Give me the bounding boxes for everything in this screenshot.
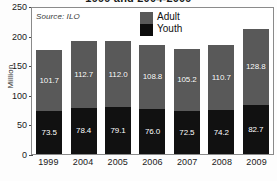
bar-value-adult: 108.8: [143, 72, 163, 81]
bar-value-adult: 105.2: [177, 75, 197, 84]
bar-value-youth: 78.4: [76, 126, 91, 135]
bar-segment-adult: 108.8: [139, 45, 165, 109]
bar-column: 101.773.5: [36, 8, 62, 154]
bar-value-youth: 72.5: [179, 128, 194, 137]
bar-segment-youth: 76.0: [139, 109, 165, 154]
bar-column: 105.272.5: [174, 8, 200, 154]
y-tick-label: 50: [0, 120, 27, 130]
bar-segment-adult: 128.8: [243, 29, 269, 105]
bar-segment-adult: 105.2: [174, 49, 200, 111]
x-tick-label: 2006: [139, 157, 165, 177]
bar-segment-youth: 82.7: [243, 105, 269, 154]
bar-column: 112.079.1: [105, 8, 131, 154]
x-axis-labels: 1999200420052006200720082009: [31, 157, 274, 177]
y-tick-label: 150: [0, 61, 27, 71]
bar-segment-youth: 78.4: [71, 108, 97, 154]
bar-value-youth: 73.5: [42, 128, 57, 137]
chart-title-clipped: 1999 and 2004-2009: [0, 0, 277, 7]
bar-column: 108.876.0: [139, 8, 165, 154]
bar-segment-adult: 112.0: [105, 41, 131, 107]
bar-segment-youth: 72.5: [174, 111, 200, 154]
bar-segment-youth: 73.5: [36, 111, 62, 155]
y-tick-label: 250: [0, 2, 27, 12]
x-tick-label: 2004: [70, 157, 96, 177]
x-tick-label: 1999: [35, 157, 61, 177]
chart-figure: 1999 and 2004-2009 Million 0501001502002…: [0, 0, 277, 181]
bar-segment-adult: 101.7: [36, 50, 62, 110]
plot-area: Source: ILO Adult Youth 101.773.5112.778…: [31, 7, 274, 155]
bar-segment-youth: 79.1: [105, 107, 131, 154]
chart-title: 1999 and 2004-2009: [0, 0, 277, 4]
bar-segment-adult: 110.7: [208, 45, 234, 111]
x-tick-label: 2008: [209, 157, 235, 177]
bar-value-adult: 101.7: [39, 76, 59, 85]
bar-value-youth: 79.1: [110, 126, 125, 135]
bar-value-adult: 112.7: [74, 70, 93, 79]
x-tick-label: 2009: [244, 157, 270, 177]
bar-column: 128.882.7: [243, 8, 269, 154]
y-tick-label: 100: [0, 91, 27, 101]
y-tick-mark: [29, 155, 33, 156]
bar-value-youth: 82.7: [248, 125, 263, 134]
bar-value-adult: 110.7: [212, 73, 231, 82]
x-tick-label: 2007: [174, 157, 200, 177]
y-tick-label: 200: [0, 32, 27, 42]
bar-value-adult: 128.8: [246, 62, 266, 71]
bar-segment-adult: 112.7: [71, 41, 97, 108]
bar-column: 110.774.2: [208, 8, 234, 154]
bar-column: 112.778.4: [71, 8, 97, 154]
bar-segment-youth: 74.2: [208, 110, 234, 154]
bar-group: 101.773.5112.778.4112.079.1108.876.0105.…: [32, 8, 273, 154]
y-tick-label: 0: [0, 150, 27, 160]
bar-value-youth: 76.0: [145, 127, 160, 136]
bar-value-youth: 74.2: [214, 128, 229, 137]
bar-value-adult: 112.0: [109, 70, 128, 79]
x-tick-label: 2005: [105, 157, 131, 177]
